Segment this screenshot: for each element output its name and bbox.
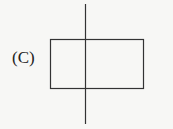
figure-diagram: [0, 0, 173, 129]
rectangle-shape: [51, 40, 144, 89]
